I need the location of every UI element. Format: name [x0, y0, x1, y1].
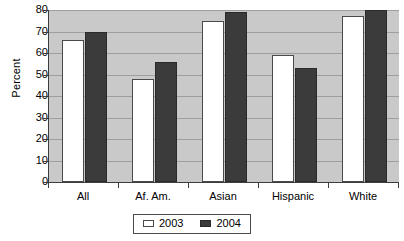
bar-2003-asian	[202, 21, 224, 182]
y-tick-label: 60	[4, 46, 48, 58]
x-tick-mark	[48, 183, 49, 188]
x-axis: AllAf. Am.AsianHispanicWhite	[48, 183, 399, 207]
y-tick-label: 20	[4, 132, 48, 144]
bar-group	[49, 10, 119, 182]
chart-legend: 20032004	[133, 214, 251, 234]
bar-2004-asian	[225, 12, 247, 182]
legend-swatch-2003	[143, 220, 154, 227]
bar-2003-afam	[132, 79, 154, 182]
bar-2003-hispanic	[272, 55, 294, 182]
bar-2004-all	[85, 32, 107, 183]
y-tick-label: 70	[4, 25, 48, 37]
legend-swatch-2004	[200, 220, 211, 227]
bar-2003-white	[342, 16, 364, 182]
legend-label-2004: 2004	[216, 218, 240, 229]
bar-group	[189, 10, 259, 182]
y-tick-label: 30	[4, 111, 48, 123]
legend-entry-2004: 2004	[200, 218, 240, 229]
bar-2003-all	[62, 40, 84, 182]
y-tick-label: 80	[4, 3, 48, 15]
bar-group	[259, 10, 329, 182]
x-tick-label-white: White	[318, 190, 404, 202]
bar-group	[119, 10, 189, 182]
bar-group	[329, 10, 399, 182]
bar-2004-white	[365, 10, 387, 182]
legend-entry-2003: 2003	[143, 218, 183, 229]
x-tick-mark	[188, 183, 189, 188]
plot-area	[48, 10, 399, 183]
y-tick-label: 50	[4, 68, 48, 80]
y-tick-label: 10	[4, 154, 48, 166]
x-tick-mark	[328, 183, 329, 188]
bar-2004-afam	[155, 62, 177, 182]
y-axis: 80706050403020100	[0, 10, 48, 182]
x-tick-mark	[258, 183, 259, 188]
bar-2004-hispanic	[295, 68, 317, 182]
x-tick-mark	[398, 183, 399, 188]
y-tick-label: 0	[4, 175, 48, 187]
y-tick-label: 40	[4, 89, 48, 101]
x-tick-mark	[118, 183, 119, 188]
bar-chart: Percent 80706050403020100 AllAf. Am.Asia…	[0, 0, 404, 241]
legend-label-2003: 2003	[159, 218, 183, 229]
